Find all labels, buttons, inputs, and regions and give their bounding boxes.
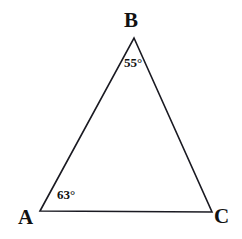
vertex-label-a: A: [18, 207, 33, 228]
angle-label-a: 63°: [57, 188, 75, 201]
vertex-label-c: C: [214, 206, 229, 227]
triangle-shape: [0, 0, 242, 239]
geometry-figure: B A C 55° 63°: [0, 0, 242, 239]
vertex-label-b: B: [124, 10, 138, 31]
angle-label-b: 55°: [124, 56, 142, 69]
